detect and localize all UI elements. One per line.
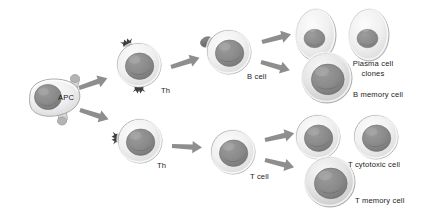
label-plasma-cell-line1: Plasma cell <box>353 59 394 68</box>
cell-th-upper: Th <box>116 37 170 95</box>
arrow-t-cell-to-t-memory-cell <box>264 154 296 173</box>
label-b-cell: B cell <box>247 72 267 81</box>
plasma-cell-2-membrane <box>349 9 389 61</box>
label-b-memory-cell: B memory cell <box>353 90 403 99</box>
cell-t-cell: T cell <box>210 129 269 181</box>
label-t-memory-cell: T memory cell <box>355 196 405 205</box>
immune-response-diagram: APC Th Th B cell T cell <box>0 0 439 210</box>
th-lower-membrane <box>117 118 162 163</box>
label-th-upper: Th <box>161 86 170 95</box>
cell-apc: APC <box>30 75 80 126</box>
arrow-apc-to-th-upper <box>77 72 109 93</box>
b-memory-cell-membrane <box>302 53 352 103</box>
cell-th-lower: Th <box>111 118 166 170</box>
cell-t-cytotoxic-2 <box>353 114 398 159</box>
t-cytotoxic-2-membrane <box>353 114 398 159</box>
cell-b-cell: B cell <box>199 29 266 81</box>
cell-plasma-cell-2 <box>349 9 389 61</box>
arrow-th-lower-to-t-cell <box>172 140 203 154</box>
arrow-apc-to-th-lower <box>78 104 110 125</box>
t-cell-membrane <box>210 129 255 174</box>
t-cytotoxic-1-membrane <box>295 114 340 159</box>
label-th-lower: Th <box>157 161 166 170</box>
th-upper-membrane <box>116 42 161 87</box>
arrow-th-upper-to-b-cell <box>169 52 201 73</box>
label-t-cell: T cell <box>250 172 269 181</box>
cell-t-cytotoxic-1 <box>295 114 340 159</box>
b-cell-membrane <box>206 29 251 74</box>
arrow-t-cell-to-t-cytotoxic-cell <box>264 127 296 146</box>
arrow-b-cell-to-plasma-cell <box>260 28 292 48</box>
diagram-canvas: APC Th Th B cell T cell <box>0 0 439 210</box>
label-t-cytotoxic-cell: T cytotoxic cell <box>348 160 400 169</box>
label-apc: APC <box>58 93 74 102</box>
t-memory-cell-membrane <box>305 157 355 207</box>
label-plasma-cell-line2: clones <box>362 69 385 78</box>
